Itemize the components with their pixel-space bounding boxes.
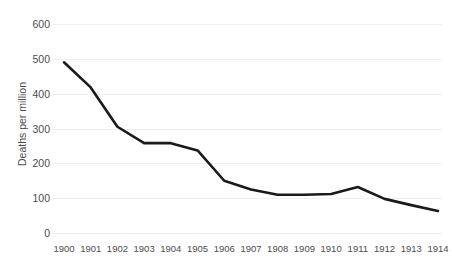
series-polyline	[64, 62, 438, 211]
line-chart: Deaths per million 0100200300400500600 1…	[0, 0, 452, 265]
data-series-line	[0, 0, 452, 265]
